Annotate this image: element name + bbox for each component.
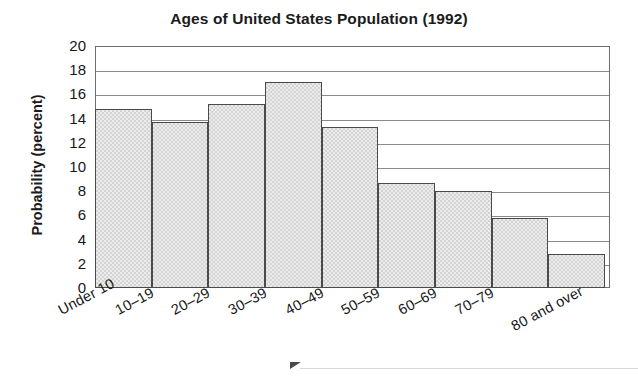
bar	[265, 82, 322, 288]
y-tick-label: 2	[46, 256, 86, 271]
x-tick-label: 80 and over	[509, 283, 586, 334]
y-tick-label: 8	[46, 183, 86, 198]
bar	[95, 109, 152, 288]
bar	[378, 183, 435, 288]
bar	[322, 127, 379, 288]
y-tick-label: 18	[46, 62, 86, 77]
x-tick-label: 50–59	[339, 284, 383, 318]
y-tick-label: 14	[46, 111, 86, 126]
y-tick-label: 10	[46, 159, 86, 174]
x-tick-label: 70–79	[452, 284, 496, 318]
y-tick-label: 4	[46, 232, 86, 247]
bar	[152, 122, 209, 288]
y-tick-label: 12	[46, 135, 86, 150]
x-tick-label: 40–49	[282, 284, 326, 318]
chart-title: Ages of United States Population (1992)	[0, 10, 638, 28]
y-tick-label: 16	[46, 86, 86, 101]
bar	[492, 218, 549, 288]
x-tick-label: 20–29	[169, 284, 213, 318]
y-tick-label: 20	[46, 38, 86, 53]
x-axis-tick-labels: Under 1010–1920–2930–3940–4950–5960–6970…	[0, 288, 638, 380]
x-tick-label: 60–69	[395, 284, 439, 318]
bar-series	[95, 46, 610, 288]
x-tick-label: 30–39	[225, 284, 269, 318]
bar	[435, 191, 492, 288]
x-tick-label: 10–19	[112, 284, 156, 318]
y-tick-label: 6	[46, 207, 86, 222]
page-edge-line	[300, 368, 638, 369]
bar	[208, 104, 265, 288]
bar-chart-figure: Ages of United States Population (1992) …	[0, 0, 638, 380]
